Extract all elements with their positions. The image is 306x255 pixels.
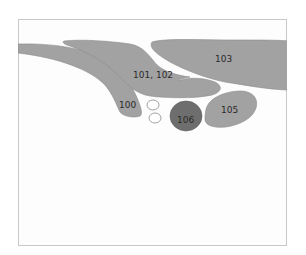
label-103: 103 — [215, 54, 232, 64]
outline-ellipse-lower — [149, 113, 161, 123]
label-106: 106 — [177, 115, 194, 125]
label-100: 100 — [119, 100, 136, 110]
label-101-102: 101, 102 — [133, 70, 173, 80]
label-105: 105 — [221, 105, 238, 115]
outline-ellipse-upper — [147, 100, 159, 110]
diagram-canvas: 100 101, 102 103 105 106 — [0, 0, 306, 255]
patent-diagram: 100 101, 102 103 105 106 — [0, 0, 306, 255]
